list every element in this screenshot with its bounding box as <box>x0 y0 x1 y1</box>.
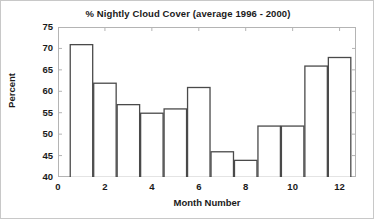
x-tick-label: 0 <box>46 182 70 192</box>
bar <box>164 109 186 177</box>
bar-rect <box>94 83 116 177</box>
chart-figure: % Nightly Cloud Cover (average 1996 - 20… <box>0 0 374 219</box>
bar <box>141 113 163 177</box>
bar-rect <box>141 113 163 177</box>
y-tick-label: 40 <box>42 172 53 182</box>
y-axis-label: Percent <box>6 53 17 129</box>
y-axis-tick-labels: 4045505560657075 <box>23 27 53 177</box>
y-tick-label: 50 <box>42 129 53 139</box>
bar <box>328 58 350 178</box>
bar-rect <box>188 88 210 178</box>
bar <box>117 105 139 177</box>
y-tick-label: 55 <box>42 108 53 118</box>
y-tick-label: 65 <box>42 65 53 75</box>
bar-rect <box>70 45 92 177</box>
y-tick-label: 75 <box>42 22 53 32</box>
bar-rect <box>305 66 327 177</box>
bar <box>281 126 303 177</box>
x-tick-label: 6 <box>187 182 211 192</box>
y-tick-label: 45 <box>42 151 53 161</box>
bar-rect <box>211 152 233 177</box>
bar-rect <box>328 58 350 178</box>
chart-title: % Nightly Cloud Cover (average 1996 - 20… <box>1 8 374 19</box>
x-tick-label: 2 <box>93 182 117 192</box>
bar-rect <box>117 105 139 177</box>
x-tick-label: 4 <box>140 182 164 192</box>
x-axis-tick-labels: 024681012 <box>58 182 356 196</box>
bar <box>94 83 116 177</box>
bars-layer <box>58 27 356 177</box>
bar-rect <box>281 126 303 177</box>
y-tick-label: 60 <box>42 86 53 96</box>
bar <box>305 66 327 177</box>
y-tick-label: 70 <box>42 43 53 53</box>
bar-rect <box>258 126 280 177</box>
x-tick-label: 12 <box>328 182 352 192</box>
bar <box>258 126 280 177</box>
bar <box>70 45 92 177</box>
bar-rect <box>164 109 186 177</box>
plot-area <box>58 27 356 177</box>
x-tick-label: 8 <box>234 182 258 192</box>
bar <box>188 88 210 178</box>
bar <box>234 160 256 177</box>
x-axis-label: Month Number <box>58 197 356 208</box>
x-tick-label: 10 <box>281 182 305 192</box>
bar <box>211 152 233 177</box>
bar-rect <box>234 160 256 177</box>
